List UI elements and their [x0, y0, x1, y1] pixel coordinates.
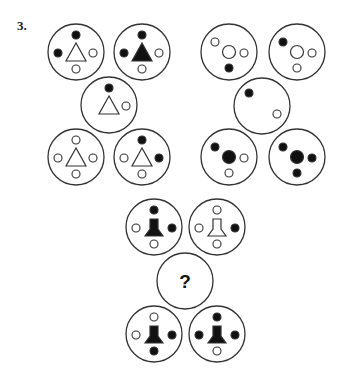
bell-group: ? — [126, 199, 245, 362]
puzzle-cell-tr-1 — [201, 24, 257, 80]
dot-left-white — [132, 224, 140, 232]
dot-top-black — [72, 31, 80, 39]
dot-right-white — [240, 49, 248, 57]
puzzle-cell-tl-2 — [114, 24, 170, 80]
puzzle-cell-tl-3 — [81, 77, 137, 133]
dot-right-black — [168, 331, 176, 339]
dot-bottom-white — [138, 170, 146, 178]
dot-right-white — [89, 154, 97, 162]
dot-top-black — [213, 313, 221, 321]
dot-right-black — [155, 154, 163, 162]
dot-bottom-white — [150, 240, 158, 248]
puzzle-cell-b-1 — [126, 199, 182, 255]
dot-bottom-white — [72, 170, 80, 178]
dot-left-black — [195, 331, 203, 339]
dot-right-black — [308, 154, 316, 162]
dot-bottom-white — [72, 65, 80, 73]
dot-left-white — [195, 224, 203, 232]
dot-bottom-white — [213, 347, 221, 355]
puzzle-cell-b-2 — [189, 199, 245, 255]
question-mark: ? — [179, 271, 191, 292]
dot-left-white — [120, 154, 128, 162]
dot-topleft-white — [211, 38, 219, 46]
dot-bottom-black — [293, 169, 301, 177]
dot-top-black — [150, 206, 158, 214]
dot-top-white — [72, 136, 80, 144]
dot-right-black — [168, 224, 176, 232]
puzzle-figure: ? — [0, 0, 343, 375]
dot-right-black — [231, 331, 239, 339]
puzzle-cell-tr-5 — [269, 129, 325, 185]
dot-top-black — [138, 31, 146, 39]
dot-top-white — [213, 206, 221, 214]
circle-group — [201, 24, 325, 185]
dot-top-black — [138, 136, 146, 144]
dot-topleft-black — [279, 38, 287, 46]
dot-bottom-white — [293, 64, 301, 72]
dot-bottom-black — [150, 347, 158, 355]
dot-right-white — [240, 154, 248, 162]
dot-right-white — [122, 102, 130, 110]
puzzle-cell-tl-1 — [48, 24, 104, 80]
puzzle-cell-b-q: ? — [157, 253, 213, 309]
dot-right-black — [231, 224, 239, 232]
dot-left-black — [54, 49, 62, 57]
center-circle-icon — [291, 151, 304, 164]
dot-bottom-white — [213, 240, 221, 248]
dot-left-white — [54, 154, 62, 162]
dot-bottom-black — [225, 64, 233, 72]
center-circle-icon — [223, 151, 236, 164]
triangle-group — [48, 24, 170, 185]
dot-top-white — [150, 313, 158, 321]
dot-bottom-white — [138, 65, 146, 73]
center-circle-icon — [223, 46, 236, 59]
puzzle-cell-b-4 — [126, 306, 182, 362]
dot-topleft-black — [211, 143, 219, 151]
dot-bottom-white — [225, 169, 233, 177]
dot-top-black — [105, 84, 113, 92]
dot-right-white — [273, 110, 281, 118]
dot-right-white — [155, 49, 163, 57]
puzzle-cell-tr-2 — [269, 24, 325, 80]
puzzle-cell-tl-5 — [114, 129, 170, 185]
center-circle-icon — [291, 46, 304, 59]
puzzle-cell-tr-3 — [234, 78, 290, 134]
puzzle-stage: 3. ? — [0, 0, 343, 375]
dot-left-white — [132, 331, 140, 339]
dot-right-white — [308, 49, 316, 57]
dot-topleft-black — [245, 89, 253, 97]
dot-left-black — [120, 49, 128, 57]
puzzle-cell-tl-4 — [48, 129, 104, 185]
dot-topleft-black — [279, 143, 287, 151]
dot-right-white — [89, 49, 97, 57]
puzzle-cell-tr-4 — [201, 129, 257, 185]
cell-outline — [234, 78, 290, 134]
puzzle-cell-b-5 — [189, 306, 245, 362]
